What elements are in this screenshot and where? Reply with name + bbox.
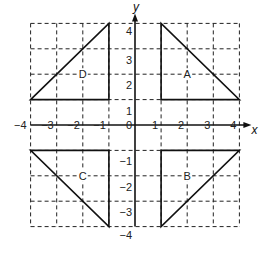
x-tick-label: 2 xyxy=(178,119,184,131)
y-tick-label: −2 xyxy=(119,181,132,193)
x-tick-label: 1 xyxy=(152,119,158,131)
triangle-outline xyxy=(31,23,109,99)
y-axis-label: y xyxy=(132,0,140,14)
axes: xy xyxy=(31,0,259,226)
y-tick-label: 1 xyxy=(126,105,132,117)
y-tick-label: 4 xyxy=(126,25,132,37)
y-axis-arrow-icon xyxy=(132,13,138,21)
tick-labels: −4−3−2−101234−4−3−2−11234 xyxy=(14,25,236,240)
triangle-c: C xyxy=(31,150,109,226)
triangle-d: D xyxy=(31,23,109,99)
shape-label: A xyxy=(184,68,192,80)
triangle-outline xyxy=(31,150,109,226)
y-tick-label: 3 xyxy=(126,54,132,66)
shape-label: C xyxy=(79,170,87,182)
x-tick-label: −3 xyxy=(41,119,54,131)
shape-label: B xyxy=(184,170,191,182)
y-tick-label: 2 xyxy=(126,79,132,91)
triangle-b: B xyxy=(161,150,239,226)
x-tick-label: −4 xyxy=(14,119,27,131)
triangle-a: A xyxy=(161,23,239,99)
triangle-outline xyxy=(161,150,239,226)
x-axis-label: x xyxy=(250,123,258,137)
x-tick-label: −2 xyxy=(67,119,80,131)
x-tick-label: 3 xyxy=(204,119,210,131)
y-tick-label: −4 xyxy=(119,229,132,241)
x-axis-arrow-icon xyxy=(243,122,251,128)
coordinate-diagram: xy −4−3−2−101234−4−3−2−11234 ABCD xyxy=(0,0,266,253)
y-tick-label: −3 xyxy=(119,206,132,218)
x-tick-label: −1 xyxy=(93,119,106,131)
triangle-outline xyxy=(161,23,239,99)
y-tick-label: −1 xyxy=(119,155,132,167)
shape-label: D xyxy=(79,68,87,80)
x-tick-label: 4 xyxy=(230,119,236,131)
x-tick-label: 0 xyxy=(126,119,132,131)
